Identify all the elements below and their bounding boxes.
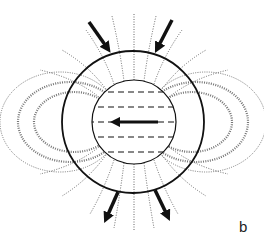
bottom-right-arrow	[155, 190, 168, 217]
panel-label: b	[239, 218, 247, 235]
top-left-arrow	[89, 22, 108, 49]
top-right-arrow	[157, 20, 172, 49]
magnetized-sphere-diagram	[0, 0, 264, 239]
